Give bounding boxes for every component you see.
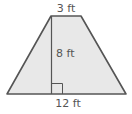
height-label: 8 ft [56, 47, 75, 60]
bottom-base-label: 12 ft [55, 97, 81, 110]
trapezoid-diagram: 3 ft 8 ft 12 ft [0, 0, 132, 114]
top-base-label: 3 ft [57, 2, 76, 15]
